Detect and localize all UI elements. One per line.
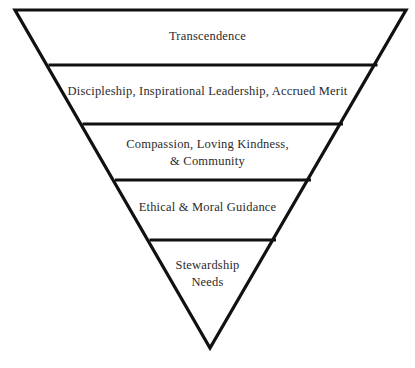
diagram-canvas: Transcendence Discipleship, Inspirationa… bbox=[0, 0, 415, 368]
inverted-pyramid-shape bbox=[0, 0, 415, 368]
